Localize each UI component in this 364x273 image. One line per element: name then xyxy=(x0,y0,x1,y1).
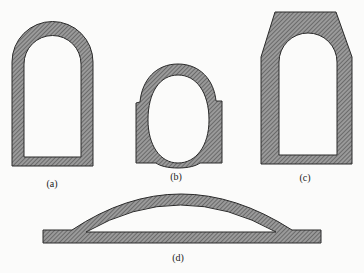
label-c: (c) xyxy=(299,172,310,183)
tunnel-section-figure xyxy=(0,0,364,273)
section-b-lining xyxy=(136,64,222,168)
section-d xyxy=(43,194,321,243)
section-b xyxy=(136,64,222,168)
label-b: (b) xyxy=(170,171,182,182)
section-a-lining xyxy=(12,22,93,167)
section-c-lining xyxy=(261,12,352,164)
label-a: (a) xyxy=(46,178,57,189)
section-c xyxy=(261,12,352,164)
section-a xyxy=(12,22,93,167)
section-d-lining xyxy=(43,194,321,243)
label-d: (d) xyxy=(172,252,184,263)
